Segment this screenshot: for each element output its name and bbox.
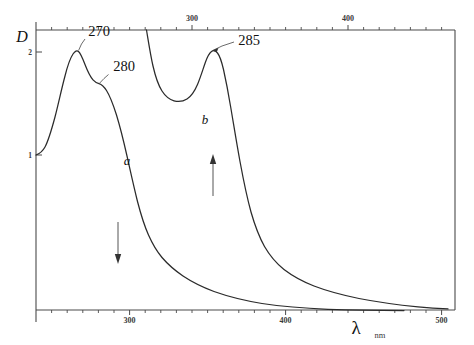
bottom-tick-label-300: 300: [124, 316, 136, 325]
annotation-285-label: 285: [238, 32, 260, 48]
spectrum-plot: 300 400: [0, 0, 474, 345]
y-axis-ticks: [36, 52, 42, 155]
curve-b: [147, 30, 449, 309]
bottom-tick-label-500: 500: [436, 316, 448, 325]
bottom-tick-label-400: 400: [280, 316, 292, 325]
top-tick-label-400: 400: [342, 14, 354, 23]
spectrum-figure: 300 400: [0, 0, 474, 345]
annotation-270-label: 270: [88, 23, 110, 39]
annotation-285: 285: [212, 32, 260, 52]
curve-a-direction-arrow-down: [115, 222, 121, 264]
curve-label-a: a: [124, 153, 131, 168]
annotation-280-label: 280: [113, 58, 135, 74]
curve-label-b: b: [202, 112, 209, 127]
top-tick-label-300: 300: [186, 14, 198, 23]
plot-frame: [36, 22, 455, 322]
annotation-280: 280: [100, 58, 135, 83]
top-axis-ticks: [52, 25, 442, 30]
y-tick-label-1: 1: [28, 151, 32, 160]
y-axis-title: D: [15, 28, 28, 45]
annotation-270: 270: [79, 23, 110, 50]
curve-a: [36, 51, 404, 311]
x-axis-unit: nm: [375, 330, 386, 340]
x-axis-title: λ: [351, 317, 361, 338]
y-tick-label-2: 2: [28, 48, 32, 57]
curve-b-direction-arrow-up: [210, 154, 216, 196]
